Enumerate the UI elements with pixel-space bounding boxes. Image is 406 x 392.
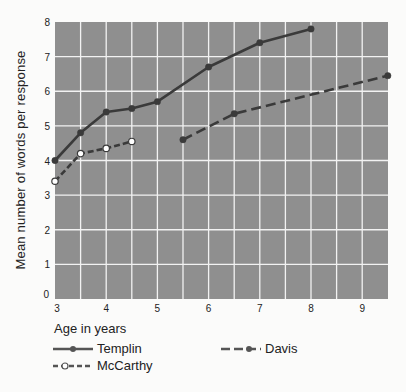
legend-label-davis: Davis	[265, 341, 298, 356]
data-point	[129, 138, 135, 144]
svg-text:8: 8	[308, 303, 314, 314]
data-point	[231, 111, 237, 117]
data-point	[154, 98, 160, 104]
data-point	[77, 150, 83, 156]
svg-text:7: 7	[44, 52, 50, 63]
solid-line-filled-marker-icon	[52, 344, 94, 354]
svg-text:5: 5	[155, 303, 161, 314]
svg-text:6: 6	[206, 303, 212, 314]
data-point	[103, 145, 109, 151]
svg-text:9: 9	[359, 303, 365, 314]
y-axis-ticks: 012345678	[43, 17, 50, 300]
legend-item-davis: Davis	[220, 341, 298, 356]
data-point	[52, 178, 58, 184]
long-dashed-line-filled-marker-icon	[220, 344, 262, 354]
svg-text:6: 6	[44, 86, 50, 97]
svg-text:7: 7	[257, 303, 263, 314]
svg-text:1: 1	[44, 259, 50, 270]
svg-text:8: 8	[44, 17, 50, 28]
data-point	[77, 130, 83, 136]
svg-text:5: 5	[44, 121, 50, 132]
legend-item-mccarthy: McCarthy	[52, 358, 153, 373]
data-point	[308, 26, 314, 32]
svg-text:0: 0	[43, 289, 49, 300]
legend: Templin McCarthy Davis	[52, 341, 382, 381]
legend-label-mccarthy: McCarthy	[97, 358, 153, 373]
data-point	[385, 72, 391, 78]
data-point	[257, 40, 263, 46]
x-axis-ticks: 3456789	[54, 303, 365, 314]
data-point	[52, 157, 58, 163]
svg-text:4: 4	[44, 156, 50, 167]
data-point	[205, 64, 211, 70]
legend-label-templin: Templin	[97, 341, 142, 356]
svg-text:3: 3	[54, 303, 60, 314]
legend-item-templin: Templin	[52, 341, 142, 356]
data-point	[180, 137, 186, 143]
x-axis-title: Age in years	[54, 321, 126, 336]
dashed-line-open-marker-icon	[52, 361, 94, 371]
line-chart: 012345678 3456789	[0, 0, 406, 320]
data-point	[129, 105, 135, 111]
y-axis-title-text: Mean number of words per response	[13, 50, 28, 269]
svg-text:2: 2	[44, 225, 50, 236]
svg-text:3: 3	[44, 190, 50, 201]
svg-text:4: 4	[103, 303, 109, 314]
data-point	[103, 109, 109, 115]
